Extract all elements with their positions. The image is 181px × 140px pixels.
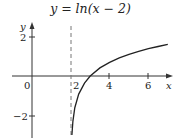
x-axis-arrow-icon xyxy=(166,74,173,79)
chart-plot: y 2 −2 0 2 4 6 x xyxy=(0,0,181,140)
function-curve xyxy=(72,44,168,135)
y-tick-label-minus2: −2 xyxy=(13,111,28,122)
y-tick-label-2: 2 xyxy=(20,32,26,43)
x-tick-label-6: 6 xyxy=(145,80,151,91)
x-tick-label-4: 4 xyxy=(106,80,112,91)
x-axis-label: x xyxy=(166,80,172,91)
y-axis-arrow-icon xyxy=(30,22,35,29)
origin-label: 0 xyxy=(24,80,30,91)
x-tick-label-2: 2 xyxy=(73,80,79,91)
y-axis-label: y xyxy=(19,21,26,32)
